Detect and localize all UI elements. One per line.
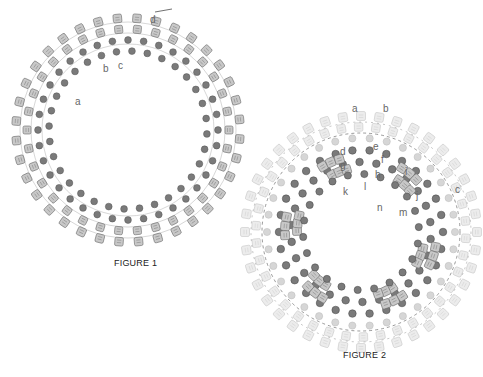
round-bead: [84, 59, 91, 66]
round-bead: [57, 167, 64, 174]
round-bead: [437, 211, 445, 219]
round-bead: [301, 217, 308, 224]
round-bead: [183, 74, 190, 81]
label-n: n: [377, 202, 383, 213]
cube-bead: [280, 221, 290, 231]
cube-bead: [319, 128, 330, 139]
cube-bead: [470, 209, 480, 219]
round-bead: [349, 135, 356, 142]
cube-bead: [324, 327, 335, 338]
cube-bead: [43, 204, 55, 216]
round-bead: [450, 211, 457, 218]
round-bead: [383, 138, 390, 145]
round-bead: [439, 228, 447, 236]
round-bead: [288, 292, 295, 299]
round-bead: [203, 115, 210, 122]
label-d: d: [340, 146, 346, 157]
round-bead: [270, 194, 277, 201]
round-bead: [170, 49, 177, 56]
label-c: c: [118, 60, 123, 71]
cube-bead: [255, 255, 265, 265]
cube-bead: [231, 95, 241, 105]
cube-bead: [114, 25, 123, 34]
round-bead: [94, 42, 101, 49]
round-bead: [349, 147, 357, 155]
cube-bead: [37, 178, 48, 189]
cube-bead: [12, 136, 21, 145]
round-bead: [414, 240, 421, 247]
round-bead: [46, 123, 53, 130]
round-bead: [316, 313, 323, 320]
cube-bead: [29, 88, 39, 98]
round-bead: [213, 142, 220, 149]
cube-bead: [223, 107, 232, 116]
round-bead: [125, 217, 132, 224]
round-bead: [56, 184, 63, 191]
cube-bead: [473, 228, 482, 237]
cube-bead: [403, 133, 414, 144]
cube-bead: [223, 76, 234, 87]
round-bead: [121, 206, 128, 213]
round-bead: [399, 313, 406, 320]
cube-bead: [261, 158, 274, 171]
figure-2-caption: FIGURE 2: [343, 350, 386, 360]
cube-bead: [392, 325, 403, 336]
round-bead: [48, 107, 55, 114]
cube-bead: [37, 71, 48, 82]
cube-bead: [151, 28, 161, 38]
label-e: e: [373, 141, 379, 152]
cube-bead: [169, 23, 180, 34]
cube-bead: [336, 124, 346, 134]
round-bead: [265, 211, 272, 218]
cube-bead: [359, 333, 368, 342]
round-bead: [349, 322, 356, 329]
round-bead: [432, 195, 440, 203]
cube-bead: [252, 173, 264, 185]
cube-bead: [186, 32, 198, 44]
cube-bead: [252, 238, 261, 247]
cube-bead: [458, 250, 468, 260]
cube-bead: [57, 33, 69, 45]
cube-bead: [24, 144, 33, 153]
round-bead: [310, 177, 318, 185]
round-bead: [204, 131, 211, 138]
round-bead: [371, 285, 378, 292]
cube-bead: [133, 226, 142, 235]
round-bead: [359, 298, 367, 306]
round-bead: [354, 286, 361, 293]
cube-bead: [225, 126, 233, 134]
round-bead: [94, 211, 101, 218]
cube-bead: [461, 216, 470, 225]
round-bead: [323, 275, 330, 282]
cube-bead: [434, 295, 446, 307]
cube-bead: [31, 189, 43, 201]
round-bead: [300, 269, 308, 277]
round-bead: [277, 179, 284, 186]
cube-bead: [208, 71, 219, 82]
cube-bead: [21, 78, 32, 89]
round-bead: [47, 172, 54, 179]
round-bead: [399, 144, 406, 151]
round-bead: [427, 165, 434, 172]
cube-bead: [78, 215, 89, 226]
cube-bead: [224, 171, 235, 182]
round-bead: [391, 181, 398, 188]
round-bead: [342, 297, 350, 305]
cube-bead: [217, 88, 227, 98]
cube-bead: [14, 97, 24, 107]
figure-2-diagram: [241, 112, 482, 353]
cube-bead: [223, 144, 232, 153]
round-bead: [46, 138, 53, 145]
label-i: i: [405, 166, 407, 177]
cube-bead: [303, 135, 315, 147]
cube-bead: [153, 233, 163, 243]
cube-bead: [23, 126, 31, 134]
round-bead: [158, 55, 165, 62]
round-bead: [194, 69, 201, 76]
round-bead: [215, 127, 222, 134]
round-bead: [203, 82, 210, 89]
round-bead: [98, 52, 105, 59]
round-bead: [61, 79, 68, 86]
cube-bead: [273, 144, 286, 157]
cube-bead: [187, 215, 199, 227]
